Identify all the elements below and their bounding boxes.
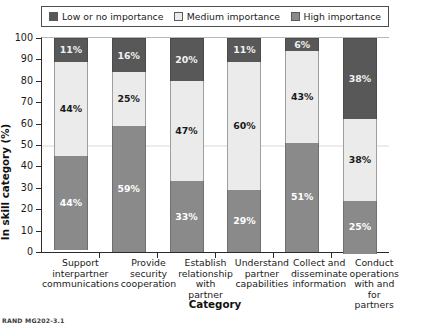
y-tick-label-100: 100 (15, 33, 33, 43)
bar-segment-low[interactable]: 11% (54, 38, 88, 62)
bar-segment-value: 25% (118, 94, 140, 104)
bar-segment-high[interactable]: 44% (54, 156, 88, 250)
y-tick-label-40: 40 (21, 161, 33, 171)
stacked-bar[interactable]: 16%25%59% (112, 38, 146, 252)
x-axis-category-label-line: communications (42, 279, 119, 290)
bar-segment-value: 43% (291, 92, 313, 102)
x-axis-category-label-line: Support (42, 258, 119, 269)
bar-segment-value: 44% (60, 104, 82, 114)
bar-column: 38%38%25% (331, 38, 389, 252)
bar-segment-value: 11% (233, 45, 255, 55)
y-tick-label-20: 20 (21, 204, 33, 214)
bar-segment-high[interactable]: 59% (112, 126, 146, 252)
stacked-bar-group: 11%44%44%16%25%59%20%47%33%11%60%29%6%43… (42, 38, 389, 252)
bar-segment-low[interactable]: 20% (170, 38, 204, 81)
bar-segment-value: 11% (60, 45, 82, 55)
bar-segment-medium[interactable]: 60% (227, 62, 261, 190)
bar-segment-high[interactable]: 25% (343, 201, 377, 255)
y-axis-title-wrapper: In skill category (%) (0, 37, 14, 253)
stacked-bar[interactable]: 11%60%29% (227, 38, 261, 252)
bar-segment-value: 59% (118, 184, 140, 194)
bar-segment-value: 44% (60, 198, 82, 208)
plot-area: 0102030405060708090100 11%44%44%16%25%59… (41, 37, 389, 253)
x-axis-category-label-line: Establish (178, 258, 233, 269)
y-tick-label-80: 80 (21, 76, 33, 86)
bar-segment-medium[interactable]: 44% (54, 62, 88, 156)
y-axis-title: In skill category (%) (0, 74, 12, 290)
bar-segment-low[interactable]: 6% (285, 38, 319, 51)
bar-segment-value: 20% (175, 55, 197, 65)
y-tick-label-30: 30 (21, 183, 33, 193)
stacked-bar[interactable]: 38%38%25% (343, 38, 377, 252)
y-tick-label-50: 50 (21, 140, 33, 150)
bar-column: 6%43%51% (273, 38, 331, 252)
legend-item-low: Low or no importance (49, 12, 163, 22)
x-axis-title: Category (41, 298, 389, 310)
bar-segment-value: 25% (349, 222, 371, 232)
legend-swatch-medium-icon (174, 12, 183, 21)
bar-segment-low[interactable]: 11% (227, 38, 261, 62)
legend-label-high: High importance (304, 12, 381, 22)
bar-segment-low[interactable]: 16% (112, 38, 146, 72)
x-axis-category-label-line: Collect and (291, 258, 348, 269)
x-axis-category-label-line: capabilities (235, 279, 289, 290)
bar-column: 20%47%33% (158, 38, 216, 252)
bar-segment-value: 6% (294, 40, 310, 50)
stacked-bar[interactable]: 11%44%44% (54, 38, 88, 252)
bar-segment-value: 51% (291, 192, 313, 202)
bar-segment-medium[interactable]: 47% (170, 81, 204, 182)
bar-segment-value: 60% (233, 121, 255, 131)
bar-segment-value: 33% (175, 212, 197, 222)
bar-segment-high[interactable]: 29% (227, 190, 261, 252)
y-tick-label-10: 10 (21, 226, 33, 236)
bar-segment-medium[interactable]: 43% (285, 51, 319, 143)
stacked-bar[interactable]: 20%47%33% (170, 38, 204, 252)
bar-segment-high[interactable]: 33% (170, 181, 204, 252)
x-axis-category-label-line: Understand (235, 258, 289, 269)
bar-segment-high[interactable]: 51% (285, 143, 319, 252)
bar-segment-value: 38% (349, 74, 371, 84)
x-axis-category-label-line: Conduct (349, 258, 398, 269)
figure-footnote: RAND MG202-3.1 (2, 317, 65, 324)
legend-item-high: High importance (291, 12, 381, 22)
y-tick-label-70: 70 (21, 97, 33, 107)
legend-swatch-high-icon (291, 12, 300, 21)
bar-segment-value: 47% (175, 126, 197, 136)
bar-segment-medium[interactable]: 38% (343, 119, 377, 200)
legend-label-medium: Medium importance (187, 12, 280, 22)
legend-label-low: Low or no importance (62, 12, 163, 22)
bar-segment-low[interactable]: 38% (343, 38, 377, 119)
bar-segment-value: 16% (118, 51, 140, 61)
x-axis-category-label-line: cooperation (121, 279, 176, 290)
bar-segment-value: 38% (349, 155, 371, 165)
bar-column: 11%44%44% (42, 38, 100, 252)
y-tick-label-60: 60 (21, 119, 33, 129)
x-axis-category-label-line: information (291, 279, 348, 290)
y-tick-label-0: 0 (27, 247, 33, 257)
y-tick-label-90: 90 (21, 54, 33, 64)
x-axis-category-label-line: Provide (121, 258, 176, 269)
legend-swatch-low-icon (49, 12, 58, 21)
stacked-bar[interactable]: 6%43%51% (285, 38, 319, 252)
bar-segment-medium[interactable]: 25% (112, 72, 146, 126)
bar-column: 11%60%29% (215, 38, 273, 252)
bar-column: 16%25%59% (100, 38, 158, 252)
bar-segment-value: 29% (233, 216, 255, 226)
legend-item-medium: Medium importance (174, 12, 280, 22)
chart-legend: Low or no importance Medium importance H… (41, 6, 389, 27)
